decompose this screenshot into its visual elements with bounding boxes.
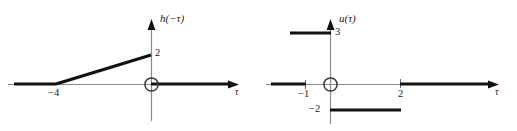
left-y-axis-arrowhead bbox=[148, 19, 156, 30]
right-x-value-minus-1-label: −1 bbox=[298, 89, 309, 100]
left-signal-ramp bbox=[56, 55, 151, 84]
right-x-axis-label: τ bbox=[495, 88, 498, 98]
right-y-axis-label: u(τ) bbox=[339, 13, 356, 24]
left-y-axis-label: h(−τ) bbox=[160, 13, 184, 24]
plot-panel-u-tau: u(τ) τ 3 −2 −1 2 bbox=[258, 0, 517, 131]
right-y-value-minus-2-label: −2 bbox=[309, 104, 320, 115]
right-plot-svg bbox=[258, 0, 517, 131]
left-x-value-minus-4-label: −4 bbox=[48, 88, 59, 99]
plot-panel-h-minus-tau: h(−τ) τ 2 −4 bbox=[0, 0, 258, 131]
left-y-value-2-label: 2 bbox=[155, 48, 160, 59]
figure-canvas: h(−τ) τ 2 −4 u(τ) τ bbox=[0, 0, 517, 131]
left-x-axis-label: τ bbox=[235, 88, 238, 98]
right-x-value-2-label: 2 bbox=[398, 89, 403, 100]
left-plot-svg bbox=[0, 0, 258, 131]
right-y-axis-arrowhead bbox=[327, 19, 335, 30]
right-y-value-3-label: 3 bbox=[335, 27, 340, 38]
